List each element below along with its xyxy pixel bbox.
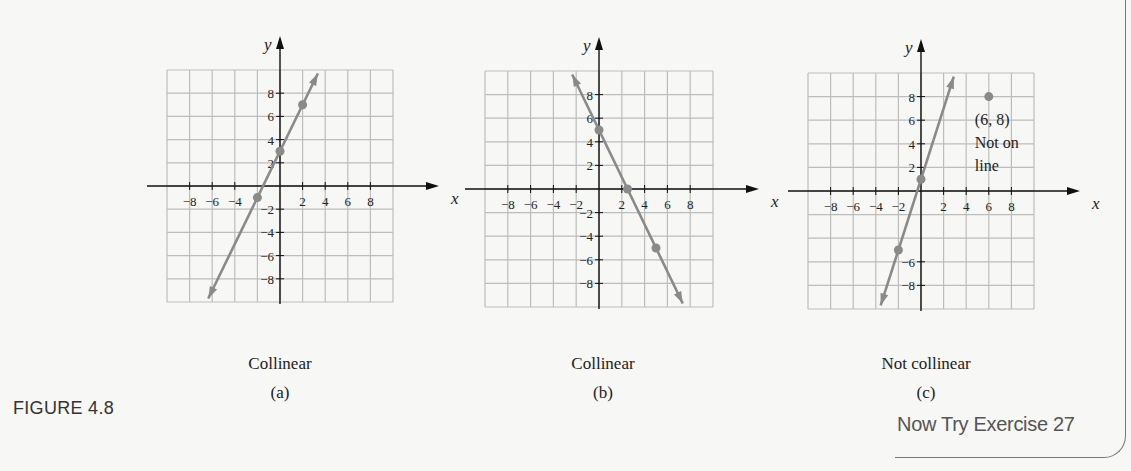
x-tick-label: 8 bbox=[1008, 199, 1015, 214]
y-tick-label: 4 bbox=[909, 137, 916, 152]
y-tick-label: 6 bbox=[909, 113, 916, 128]
graph-c-plot: xy−8−6−4−224688642−6−8(6, 8)Not online bbox=[808, 73, 1034, 309]
data-point bbox=[253, 193, 262, 202]
graph-b-plot: xy−8−6−4−224688642−2−4−6−8 bbox=[485, 71, 713, 307]
x-tick-label: 6 bbox=[986, 199, 993, 214]
x-tick-label: 2 bbox=[940, 199, 947, 214]
y-tick-label: −6 bbox=[260, 249, 274, 264]
x-tick-label: 8 bbox=[687, 197, 694, 212]
data-point bbox=[595, 126, 604, 135]
y-tick-label: 8 bbox=[909, 90, 916, 105]
data-point bbox=[276, 147, 285, 156]
y-tick-label: 6 bbox=[268, 109, 275, 124]
y-tick-label: −4 bbox=[260, 225, 274, 240]
y-axis-label: y bbox=[262, 35, 272, 54]
sublabel-a: (a) bbox=[250, 383, 310, 403]
point-annotation: (6, 8) bbox=[975, 111, 1010, 129]
sublabel-b: (b) bbox=[573, 383, 633, 403]
y-tick-label: −6 bbox=[901, 255, 915, 270]
x-tick-label: −6 bbox=[205, 194, 219, 209]
x-tick-label: −8 bbox=[183, 194, 197, 209]
x-tick-label: −8 bbox=[501, 197, 515, 212]
x-tick-label: 2 bbox=[619, 197, 626, 212]
x-axis-label: x bbox=[450, 189, 459, 208]
x-tick-label: −4 bbox=[546, 197, 560, 212]
graph-a: xy−8−6−424688642−2−4−6−8 bbox=[167, 70, 393, 306]
point-annotation: line bbox=[975, 157, 999, 174]
line-arrow-icon bbox=[309, 73, 318, 86]
graph-a-plot: xy−8−6−424688642−2−4−6−8 bbox=[167, 70, 393, 302]
line-arrow-icon bbox=[674, 291, 683, 304]
x-tick-label: 6 bbox=[345, 194, 352, 209]
y-tick-label: −2 bbox=[260, 202, 274, 217]
data-point bbox=[652, 244, 661, 253]
y-tick-label: −8 bbox=[901, 278, 915, 293]
sublabel-c: (c) bbox=[896, 383, 956, 403]
line-arrow-icon bbox=[946, 77, 954, 90]
x-tick-label: 4 bbox=[322, 194, 329, 209]
y-axis-label: y bbox=[581, 36, 591, 55]
frame-mask bbox=[0, 440, 895, 470]
now-try-exercise-link[interactable]: Now Try Exercise 27 bbox=[897, 413, 1075, 436]
x-tick-label: 2 bbox=[299, 194, 306, 209]
x-tick-label: −4 bbox=[228, 194, 242, 209]
caption-b: Collinear bbox=[503, 354, 703, 374]
x-tick-label: 8 bbox=[367, 194, 374, 209]
data-point bbox=[623, 185, 632, 194]
x-tick-label: −6 bbox=[524, 197, 538, 212]
y-tick-label: −4 bbox=[579, 229, 593, 244]
figure-label: FIGURE 4.8 bbox=[13, 398, 114, 419]
data-point bbox=[984, 92, 993, 101]
graph-b: xy−8−6−4−224688642−2−4−6−8 bbox=[485, 71, 713, 311]
y-tick-label: −2 bbox=[579, 206, 593, 221]
point-annotation: Not on bbox=[975, 134, 1019, 151]
y-tick-label: 2 bbox=[909, 160, 916, 175]
x-tick-label: −2 bbox=[891, 199, 905, 214]
y-tick-label: 2 bbox=[587, 158, 594, 173]
x-tick-label: 4 bbox=[641, 197, 648, 212]
data-point bbox=[894, 246, 903, 255]
x-tick-label: −4 bbox=[869, 199, 883, 214]
x-axis-label: x bbox=[770, 192, 779, 211]
y-tick-label: 4 bbox=[268, 133, 275, 148]
x-tick-label: 6 bbox=[664, 197, 671, 212]
y-tick-label: −8 bbox=[260, 272, 274, 287]
caption-c: Not collinear bbox=[826, 354, 1026, 374]
data-point bbox=[917, 175, 926, 184]
line-arrow-icon bbox=[881, 293, 889, 306]
graph-c: xy−8−6−4−224688642−6−8(6, 8)Not online bbox=[808, 73, 1034, 313]
y-tick-label: −8 bbox=[579, 276, 593, 291]
y-tick-label: 8 bbox=[587, 88, 594, 103]
x-tick-label: −6 bbox=[846, 199, 860, 214]
caption-a: Collinear bbox=[180, 354, 380, 374]
x-tick-label: −8 bbox=[824, 199, 838, 214]
y-tick-label: −6 bbox=[579, 253, 593, 268]
data-point bbox=[298, 100, 307, 109]
y-axis-label: y bbox=[903, 38, 913, 57]
y-tick-label: 8 bbox=[268, 86, 275, 101]
x-tick-label: 4 bbox=[963, 199, 970, 214]
x-axis-label: x bbox=[1091, 194, 1100, 213]
y-tick-label: 4 bbox=[587, 135, 594, 150]
